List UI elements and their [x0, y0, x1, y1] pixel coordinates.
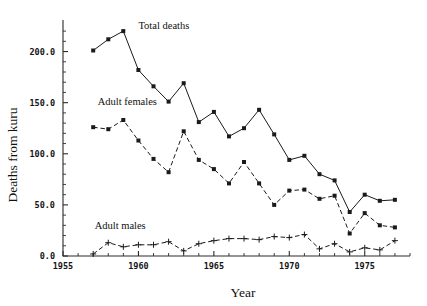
x-tick-label: 1960	[128, 261, 148, 271]
data-point-marker	[318, 197, 322, 201]
data-point-marker	[348, 210, 352, 214]
series-label-adult-males: Adult males	[95, 220, 146, 231]
data-point-marker	[135, 242, 141, 248]
series-line-adult-females	[93, 120, 395, 234]
data-point-marker	[348, 232, 352, 236]
data-point-marker	[272, 203, 276, 207]
data-point-marker	[151, 242, 157, 248]
data-point-marker	[256, 237, 262, 243]
tick-labels-group: 0.050.0100.0150.0200.0195519601965197019…	[29, 47, 375, 271]
data-point-marker	[120, 244, 126, 250]
y-tick-label: 0.0	[40, 251, 55, 261]
data-point-marker	[136, 139, 140, 143]
data-point-marker	[377, 247, 383, 253]
data-point-marker	[196, 241, 202, 247]
plot-area: 0.050.0100.0150.0200.0195519601965197019…	[29, 20, 410, 271]
data-point-marker	[242, 126, 246, 130]
data-point-marker	[347, 249, 353, 255]
x-axis-title: Year	[231, 285, 256, 300]
data-point-marker	[106, 127, 110, 131]
data-point-marker	[301, 232, 307, 238]
data-point-marker	[272, 132, 276, 136]
data-point-marker	[211, 238, 217, 244]
data-point-marker	[242, 160, 246, 164]
x-tick-label: 1975	[354, 261, 374, 271]
data-point-marker	[121, 118, 125, 122]
data-point-marker	[393, 198, 397, 202]
y-tick-label: 100.0	[29, 149, 55, 159]
x-tick-label: 1970	[279, 261, 299, 271]
data-point-marker	[121, 29, 125, 33]
y-tick-label: 200.0	[29, 47, 55, 57]
data-point-marker	[393, 225, 397, 229]
x-tick-label: 1965	[204, 261, 224, 271]
data-point-marker	[257, 181, 261, 185]
data-point-marker	[333, 194, 337, 198]
data-point-marker	[362, 245, 368, 251]
series-annotations-group: Total deathsAdult femalesAdult males	[95, 20, 190, 231]
data-point-marker	[152, 157, 156, 161]
data-point-marker	[302, 154, 306, 158]
data-point-marker	[318, 172, 322, 176]
data-point-marker	[152, 84, 156, 88]
data-point-marker	[363, 193, 367, 197]
data-point-marker	[332, 241, 338, 247]
data-point-marker	[271, 234, 277, 240]
data-point-marker	[212, 110, 216, 114]
data-point-marker	[333, 178, 337, 182]
data-point-marker	[226, 236, 232, 242]
kuru-deaths-chart: 0.050.0100.0150.0200.0195519601965197019…	[0, 0, 427, 306]
data-point-marker	[227, 134, 231, 138]
data-point-marker	[106, 37, 110, 41]
data-point-marker	[257, 108, 261, 112]
data-point-marker	[91, 125, 95, 129]
data-point-marker	[181, 248, 187, 254]
y-tick-label: 150.0	[29, 98, 55, 108]
data-point-marker	[241, 236, 247, 242]
data-point-marker	[182, 81, 186, 85]
series-label-total-deaths: Total deaths	[138, 20, 189, 31]
data-point-marker	[136, 68, 140, 72]
data-point-marker	[91, 49, 95, 53]
data-point-marker	[302, 188, 306, 192]
data-point-marker	[378, 223, 382, 227]
data-point-marker	[378, 199, 382, 203]
y-tick-label: 50.0	[35, 200, 55, 210]
data-point-marker	[316, 246, 322, 252]
data-point-marker	[392, 238, 398, 244]
data-point-marker	[167, 170, 171, 174]
series-line-total-deaths	[93, 31, 395, 212]
data-point-marker	[363, 211, 367, 215]
data-point-marker	[197, 120, 201, 124]
y-axis-title: Deaths from kuru	[5, 107, 20, 202]
data-point-marker	[227, 181, 231, 185]
data-point-marker	[287, 158, 291, 162]
data-point-marker	[197, 158, 201, 162]
data-point-marker	[287, 189, 291, 193]
x-tick-label: 1955	[53, 261, 73, 271]
data-point-marker	[167, 100, 171, 104]
chart-canvas: 0.050.0100.0150.0200.0195519601965197019…	[0, 0, 427, 306]
data-point-marker	[212, 167, 216, 171]
data-point-marker	[166, 239, 172, 245]
series-label-adult-females: Adult females	[98, 96, 157, 107]
data-point-marker	[182, 129, 186, 133]
data-point-marker	[286, 235, 292, 241]
